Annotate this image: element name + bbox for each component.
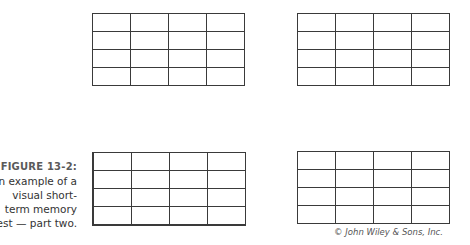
grid-cell <box>93 32 131 50</box>
grid-cell <box>412 32 450 50</box>
grid-row <box>93 50 245 68</box>
grid-cell <box>298 50 336 68</box>
grid-cell <box>208 171 246 189</box>
grid-row <box>93 14 245 32</box>
grid-cell <box>170 171 208 189</box>
grid-cell <box>132 171 170 189</box>
grid-cell <box>131 14 169 32</box>
caption-line: test — part two. <box>0 216 77 230</box>
grid-cell <box>374 50 412 68</box>
grid-cell <box>336 50 374 68</box>
grid-row <box>298 68 450 86</box>
grid-cell <box>132 207 170 226</box>
grid-cell <box>298 206 336 224</box>
grid-cell <box>374 68 412 86</box>
grid-cell <box>207 14 245 32</box>
grid-cell <box>336 68 374 86</box>
grid-cell <box>412 50 450 68</box>
grid-cell <box>131 50 169 68</box>
grid-row <box>93 171 246 189</box>
grid-cell <box>412 152 450 170</box>
grid-cell <box>131 68 169 86</box>
grid-row <box>298 32 450 50</box>
grid-cell <box>412 68 450 86</box>
grid-row <box>298 188 450 206</box>
grid-cell <box>132 189 170 207</box>
grid-cell <box>298 68 336 86</box>
grid-cell <box>298 188 336 206</box>
grid-cell <box>374 188 412 206</box>
grid-cell <box>93 171 132 189</box>
grid-cell <box>169 50 207 68</box>
grid-cell <box>93 189 132 207</box>
caption-line: visual short- <box>0 188 77 202</box>
memory-grid-top-left <box>92 13 245 86</box>
grid-cell <box>374 170 412 188</box>
grid-cell <box>298 152 336 170</box>
grid-cell <box>336 152 374 170</box>
caption-line: term memory <box>0 202 77 216</box>
grid-cell <box>93 14 131 32</box>
grid-cell <box>336 14 374 32</box>
grid-row <box>93 189 246 207</box>
grid-cell <box>412 188 450 206</box>
grid-cell <box>208 189 246 207</box>
memory-grid-bottom-left <box>92 152 246 226</box>
copyright-notice: © John Wiley & Sons, Inc. <box>334 227 443 237</box>
grid-row <box>93 32 245 50</box>
grid-cell <box>374 14 412 32</box>
grid-cell <box>169 68 207 86</box>
grid-row <box>298 50 450 68</box>
grid-cell <box>207 32 245 50</box>
grid-cell <box>336 170 374 188</box>
grid-cell <box>336 32 374 50</box>
grid-cell <box>336 206 374 224</box>
grid-row <box>298 152 450 170</box>
grid-cell <box>170 153 208 171</box>
grid-cell <box>336 188 374 206</box>
grid-cell <box>412 170 450 188</box>
grid-cell <box>207 68 245 86</box>
grid-cell <box>412 206 450 224</box>
grid-row <box>93 68 245 86</box>
figure-caption: FIGURE 13-2: An example of a visual shor… <box>0 160 77 230</box>
grid-cell <box>93 50 131 68</box>
memory-grid-bottom-right <box>297 151 450 224</box>
grid-cell <box>298 14 336 32</box>
grid-cell <box>93 68 131 86</box>
grid-cell <box>412 14 450 32</box>
grid-cell <box>374 206 412 224</box>
grid-cell <box>208 207 246 226</box>
grid-cell <box>298 170 336 188</box>
grid-cell <box>93 153 132 171</box>
grid-cell <box>298 32 336 50</box>
grid-cell <box>132 153 170 171</box>
caption-line: An example of a <box>0 174 77 188</box>
grid-row <box>93 207 246 226</box>
grid-cell <box>170 207 208 226</box>
grid-row <box>298 170 450 188</box>
grid-cell <box>374 152 412 170</box>
grid-cell <box>208 153 246 171</box>
figure-label: FIGURE 13-2: <box>0 160 77 174</box>
grid-row <box>298 206 450 224</box>
grid-cell <box>170 189 208 207</box>
grid-row <box>298 14 450 32</box>
grid-cell <box>169 32 207 50</box>
grid-cell <box>93 207 132 226</box>
memory-grid-top-right <box>297 13 450 86</box>
grid-cell <box>169 14 207 32</box>
grid-cell <box>207 50 245 68</box>
grid-row <box>93 153 246 171</box>
grid-cell <box>374 32 412 50</box>
grid-cell <box>131 32 169 50</box>
